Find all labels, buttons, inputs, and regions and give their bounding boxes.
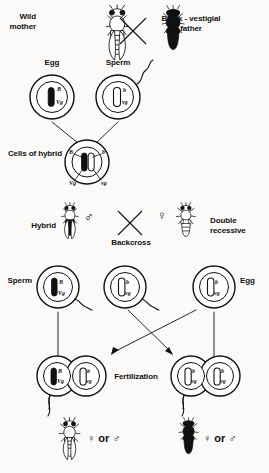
line-sperm-to-hybrid <box>96 122 118 143</box>
fertilization-label: Fertilization <box>108 372 164 382</box>
cells-of-hybrid-label: Cells of hybrid <box>0 149 62 159</box>
sperm-f-two-gene-bottom: vg <box>125 290 131 297</box>
backcross-symbol <box>116 209 144 237</box>
hybrid-chromosome-black <box>82 153 88 171</box>
egg-gene-bottom: Vg <box>56 99 63 106</box>
sperm-label-f: Sperm <box>0 276 32 286</box>
egg-label: Egg <box>30 58 74 68</box>
egg-label-f: Egg <box>240 276 269 286</box>
zygote-left-a-gene-top: B <box>58 368 62 375</box>
line-egg-to-zygote-left <box>112 310 196 353</box>
genetics-backcross-figure: Wild mother <box>0 0 269 473</box>
egg-f-gene-top: b <box>215 279 218 286</box>
zygote-left-b-gene-bottom: vg <box>86 378 92 385</box>
hybrid-gene-top-right: b <box>102 149 105 156</box>
sperm-tail-f-two <box>142 299 159 310</box>
hybrid-chromosome-white <box>88 153 94 171</box>
sperm-label: Sperm <box>96 58 140 68</box>
parental-cross-symbol <box>118 16 148 46</box>
double-recessive-female-symbol: ♀ <box>157 209 167 222</box>
hybrid-gene-bottom-right: vg <box>101 180 107 187</box>
sperm-tail-f-one <box>75 299 92 310</box>
arrowheads <box>111 347 173 355</box>
hybrid-label: Hybrid <box>22 221 56 231</box>
backcross-caption: Backcross <box>105 238 157 248</box>
black-vestigial-father-label: Black - vestigial father <box>146 14 236 33</box>
offspring-left-sex-symbol: ♀ or ♂ <box>87 432 121 445</box>
line-egg-to-hybrid <box>52 122 78 143</box>
zygote-right-a-gene-top: b <box>192 368 195 375</box>
squiggle-left <box>48 396 50 416</box>
sperm-gene-top: b <box>123 87 126 94</box>
hybrid-gene-top-left: B <box>69 149 73 156</box>
sperm-f-one-gene-top: B <box>59 279 63 286</box>
squiggle-right <box>182 396 184 416</box>
offspring-right-sex-symbol: ♀ or ♂ <box>203 432 237 445</box>
egg-f-gene-bottom: vg <box>214 290 220 297</box>
sperm-f-one-gene-bottom: Vg <box>58 290 65 297</box>
zygote-left-b-gene-top: b <box>87 368 90 375</box>
zygote-right-a-gene-bottom: vg <box>191 378 197 385</box>
wild-mother-label: Wild mother <box>0 12 36 31</box>
sperm-f-two-gene-top: b <box>126 279 129 286</box>
line-sperm2-to-zygote-right <box>128 310 172 353</box>
hybrid-gene-bottom-left: Vg <box>69 180 76 187</box>
double-recessive-label: Double recessive <box>210 216 266 235</box>
sperm-gene-bottom: vg <box>122 99 128 106</box>
zygote-left-a-gene-bottom: Vg <box>57 378 64 385</box>
hybrid-male-symbol: ♂ <box>84 210 94 223</box>
egg-gene-top: B <box>57 86 61 93</box>
zygote-right-b-gene-top: b <box>221 368 224 375</box>
zygote-right-b-gene-bottom: vg <box>220 378 226 385</box>
